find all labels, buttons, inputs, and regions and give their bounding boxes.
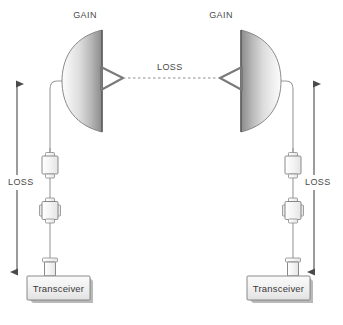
right-antenna-gain-label: GAIN [198, 10, 244, 20]
left-dish-reflector [62, 30, 102, 132]
left-connector-base [43, 258, 58, 276]
right-feed-horn [220, 67, 242, 90]
right-dish-reflector [241, 30, 281, 132]
right-antenna-group [220, 30, 293, 152]
left-antenna-group [50, 30, 123, 152]
left-feed-horn [101, 67, 123, 90]
right-transceiver-label: Transceiver [247, 283, 310, 294]
path-loss-label: LOSS [155, 61, 185, 73]
left-transceiver-label: Transceiver [27, 283, 90, 294]
left-cable-run [40, 148, 61, 276]
right-connector-base [286, 258, 301, 276]
diagram-canvas [0, 0, 343, 325]
left-connector-lower [40, 198, 61, 223]
right-cable-run [283, 148, 304, 276]
right-cable-loss-label: LOSS [303, 176, 333, 188]
left-antenna-gain-label: GAIN [62, 10, 108, 20]
left-cable-loss-label: LOSS [6, 176, 36, 188]
rf-link-diagram: GAIN GAIN LOSS LOSS LOSS Transceiver Tra… [0, 0, 343, 325]
right-connector-upper [285, 153, 301, 179]
right-connector-lower [283, 198, 304, 223]
left-connector-upper [42, 153, 58, 179]
